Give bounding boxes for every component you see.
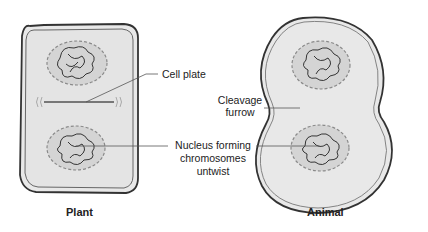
animal-cell [256,17,392,213]
label-cell-plate: Cell plate [162,68,206,80]
label-cleavage-furrow-line1: Cleavage [216,94,264,106]
plant-cell [20,24,138,193]
label-nucleus-line1: Nucleus forming [168,139,258,151]
plant-nucleus-bottom [47,126,105,170]
diagram-canvas [0,0,428,232]
caption-animal: Animal [307,206,344,218]
label-cleavage-furrow-line2: furrow [216,106,264,118]
caption-plant: Plant [66,206,93,218]
label-nucleus-line2: chromosomes [168,152,258,164]
label-nucleus-line3: untwist [168,165,258,177]
